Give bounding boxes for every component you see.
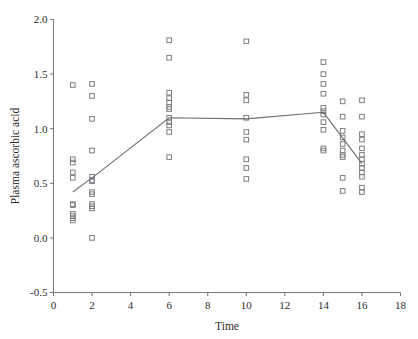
x-tick-label: 0 <box>51 299 57 311</box>
data-point-marker <box>340 142 345 147</box>
x-tick-label: 12 <box>279 299 290 311</box>
data-point-marker <box>360 114 365 119</box>
data-point-marker <box>70 83 75 88</box>
y-axis-tick-labels: -0.50.00.51.01.52.0 <box>30 13 48 298</box>
chart-figure: -0.50.00.51.01.52.0 024681012141618 Time… <box>0 0 418 339</box>
data-point-marker <box>244 177 249 182</box>
x-tick-label: 4 <box>128 299 134 311</box>
data-point-marker <box>340 189 345 194</box>
data-point-marker <box>340 129 345 134</box>
data-point-marker <box>340 114 345 119</box>
data-point-marker <box>321 60 326 65</box>
data-point-marker <box>244 39 249 44</box>
data-point-marker <box>244 130 249 135</box>
data-point-marker <box>360 137 365 142</box>
data-point-marker <box>360 146 365 151</box>
plot-axes <box>54 20 401 293</box>
data-point-marker <box>70 170 75 175</box>
y-tick-label: 0.0 <box>34 232 48 244</box>
y-tick-label: -0.5 <box>30 286 48 298</box>
data-point-marker <box>321 127 326 132</box>
y-tick-label: 2.0 <box>34 13 48 25</box>
data-point-marker <box>90 94 95 99</box>
data-point-marker <box>244 93 249 98</box>
x-tick-label: 18 <box>395 299 407 311</box>
data-point-marker <box>244 157 249 162</box>
data-point-marker <box>70 157 75 162</box>
x-tick-label: 2 <box>89 299 95 311</box>
x-tick-label: 8 <box>205 299 211 311</box>
data-point-marker <box>167 38 172 43</box>
data-point-marker <box>321 82 326 87</box>
x-tick-label: 6 <box>166 299 172 311</box>
data-point-marker <box>321 91 326 96</box>
data-point-marker <box>90 82 95 87</box>
x-axis-title: Time <box>215 320 239 332</box>
y-tick-label: 1.0 <box>34 123 48 135</box>
data-point-marker <box>244 137 249 142</box>
x-tick-label: 14 <box>318 299 330 311</box>
data-point-marker <box>167 55 172 60</box>
data-point-marker <box>167 130 172 135</box>
data-point-marker <box>340 99 345 104</box>
data-point-marker <box>244 166 249 171</box>
data-point-marker <box>90 117 95 122</box>
mean-trend-line <box>73 112 362 192</box>
y-tick-label: 0.5 <box>34 177 48 189</box>
data-point-marker <box>90 236 95 241</box>
data-point-marker <box>360 98 365 103</box>
x-tick-label: 10 <box>241 299 253 311</box>
data-point-marker <box>321 106 326 111</box>
data-point-marker <box>360 132 365 137</box>
x-tick-label: 16 <box>356 299 368 311</box>
data-point-marker <box>321 72 326 77</box>
data-point-marker <box>167 155 172 160</box>
data-point-marker <box>167 123 172 128</box>
data-point-marker <box>70 160 75 165</box>
data-point-marker <box>321 120 326 125</box>
data-point-markers <box>70 38 364 240</box>
data-point-marker <box>167 90 172 95</box>
x-axis-tick-labels: 024681012141618 <box>51 299 407 311</box>
data-point-marker <box>340 176 345 181</box>
y-tick-label: 1.5 <box>34 68 48 80</box>
scatter-plot: -0.50.00.51.01.52.0 024681012141618 Time… <box>0 0 418 339</box>
data-point-marker <box>70 176 75 181</box>
data-point-marker <box>244 98 249 103</box>
y-axis-title: Plasma ascorbic acid <box>9 108 21 205</box>
data-point-marker <box>90 148 95 153</box>
